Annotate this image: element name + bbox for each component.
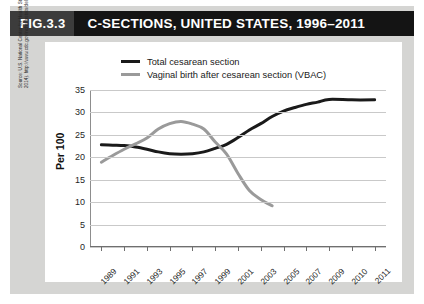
x-tick-mark [329,247,330,251]
figure-title-bar: FIG.3.3 C-SECTIONS, UNITED STATES, 1996–… [10,11,414,36]
gridline [90,112,386,113]
series-line-total-cesarean [101,99,374,154]
legend-item-vbac: Vaginal birth after cesarean section (VB… [121,68,326,81]
y-tick-label: 20 [75,152,85,162]
x-tick-mark [192,247,193,251]
legend-label-vbac: Vaginal birth after cesarean section (VB… [147,70,326,80]
x-tick-label: 2003 [271,253,291,273]
gridline [90,157,386,158]
legend-swatch-total-cesarean [121,60,140,63]
legend-item-total-cesarean: Total cesarean section [121,55,326,68]
x-tick-mark [215,247,216,251]
x-tick-label: 2011 [385,253,405,273]
figure-title: C-SECTIONS, UNITED STATES, 1996–2011 [74,16,365,31]
x-tick-mark [124,247,125,251]
y-tick-label: 35 [75,85,85,95]
x-tick-mark [238,247,239,251]
gridline [90,202,386,203]
chart-card: Total cesarean section Vaginal birth aft… [45,42,402,282]
x-tick-mark [147,247,148,251]
gridline [90,135,386,136]
chart-legend: Total cesarean section Vaginal birth aft… [121,55,326,81]
figure-root: FIG.3.3 C-SECTIONS, UNITED STATES, 1996–… [0,0,424,304]
y-tick-label: 30 [75,107,85,117]
y-axis-title: Per 100 [54,133,66,170]
plot-area: 0510152025303519891991199319951997199920… [90,90,386,247]
gridline [90,90,386,91]
y-tick-label: 5 [80,220,85,230]
x-tick-mark [261,247,262,251]
legend-swatch-vbac [121,73,140,76]
source-note: Source: U.S. National Center for Health … [18,0,29,88]
y-tick-label: 0 [80,242,85,252]
series-lines [90,90,386,247]
x-tick-mark [101,247,102,251]
gridline [90,180,386,181]
y-tick-label: 15 [75,175,85,185]
y-tick-label: 10 [75,197,85,207]
x-tick-mark [375,247,376,251]
x-tick-mark [170,247,171,251]
x-tick-mark [352,247,353,251]
x-tick-mark [306,247,307,251]
x-tick-mark [284,247,285,251]
gridline [90,225,386,226]
legend-label-total-cesarean: Total cesarean section [147,57,240,67]
y-tick-label: 25 [75,130,85,140]
